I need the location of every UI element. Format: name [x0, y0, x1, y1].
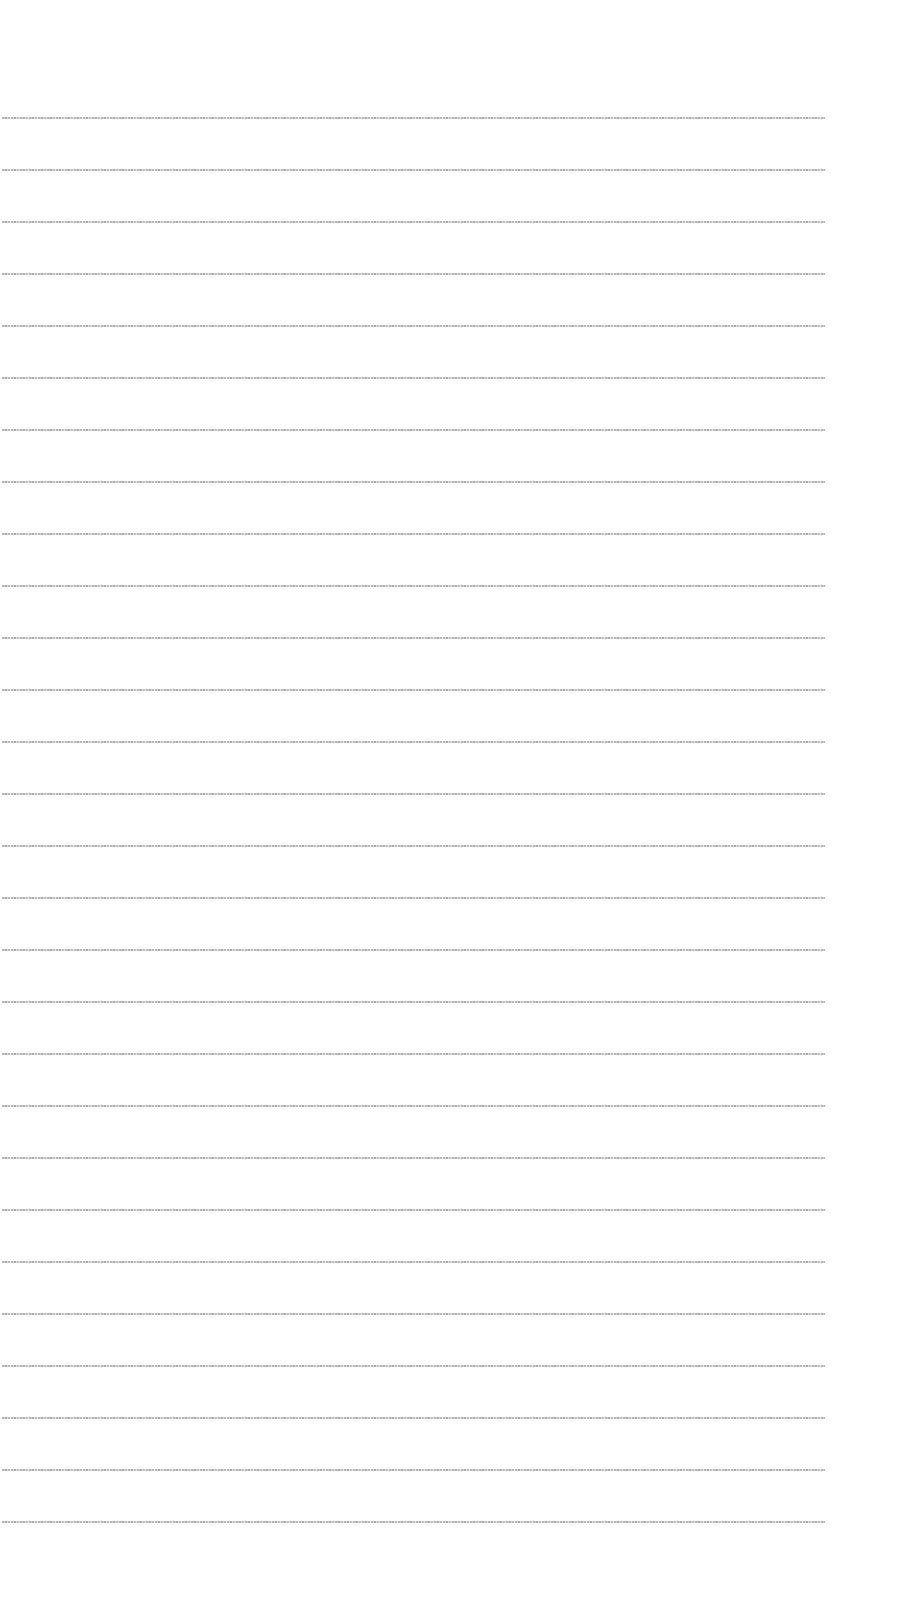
text-line-content: [unreadable]: [2, 1104, 21, 1108]
text-line-content: [unreadable]: [2, 948, 21, 952]
document-page: [unreadable][unreadable][unreadable][unr…: [0, 0, 924, 1622]
text-line: [unreadable]: [2, 1104, 825, 1108]
text-line-glyphs: [2, 793, 825, 795]
text-line-content: [unreadable]: [2, 740, 21, 744]
text-line-glyphs: [2, 325, 825, 327]
text-line-content: [unreadable]: [2, 636, 21, 640]
text-line: [unreadable]: [2, 896, 825, 900]
text-line: [unreadable]: [2, 532, 825, 536]
text-line-glyphs: [2, 689, 825, 691]
text-line-glyphs: [2, 845, 825, 847]
text-line-content: [unreadable]: [2, 1312, 21, 1316]
text-line-glyphs: [2, 1365, 825, 1367]
text-line-glyphs: [2, 637, 825, 639]
text-line: [unreadable]: [2, 324, 825, 328]
text-line-glyphs: [2, 897, 825, 899]
text-line-content: [unreadable]: [2, 1260, 21, 1264]
text-line: [unreadable]: [2, 1156, 825, 1160]
text-line-glyphs: [2, 1001, 825, 1003]
text-line-glyphs: [2, 741, 825, 743]
text-line: [unreadable]: [2, 1416, 825, 1420]
text-line-content: [unreadable]: [2, 896, 21, 900]
text-line-content: [unreadable]: [2, 168, 21, 172]
text-line-content: [unreadable]: [2, 532, 21, 536]
text-line-content: [unreadable]: [2, 1052, 21, 1056]
text-line: [unreadable]: [2, 116, 825, 120]
text-line-content: [unreadable]: [2, 584, 21, 588]
text-line-glyphs: [2, 1053, 825, 1055]
text-line-glyphs: [2, 533, 825, 535]
text-line-glyphs: [2, 949, 825, 951]
text-line-glyphs: [2, 117, 825, 119]
text-line: [unreadable]: [2, 844, 825, 848]
text-line-content: [unreadable]: [2, 688, 21, 692]
text-line-glyphs: [2, 1313, 825, 1315]
text-line: [unreadable]: [2, 480, 825, 484]
text-line: [unreadable]: [2, 584, 825, 588]
text-line-content: [unreadable]: [2, 1416, 21, 1420]
text-line-glyphs: [2, 585, 825, 587]
text-line-glyphs: [2, 1261, 825, 1263]
text-line-glyphs: [2, 1105, 825, 1107]
text-line-content: [unreadable]: [2, 1000, 21, 1004]
text-line-glyphs: [2, 1469, 825, 1471]
text-line: [unreadable]: [2, 1312, 825, 1316]
text-line-glyphs: [2, 1521, 825, 1523]
text-line-glyphs: [2, 273, 825, 275]
text-line-glyphs: [2, 377, 825, 379]
text-line-content: [unreadable]: [2, 376, 21, 380]
text-line-glyphs: [2, 169, 825, 171]
text-line-content: [unreadable]: [2, 1468, 21, 1472]
text-line: [unreadable]: [2, 1364, 825, 1368]
text-line-content: [unreadable]: [2, 1156, 21, 1160]
text-line-glyphs: [2, 1209, 825, 1211]
text-line-content: [unreadable]: [2, 220, 21, 224]
text-line-content: [unreadable]: [2, 1364, 21, 1368]
text-line-content: [unreadable]: [2, 792, 21, 796]
text-line: [unreadable]: [2, 376, 825, 380]
text-line: [unreadable]: [2, 1052, 825, 1056]
text-line-glyphs: [2, 1417, 825, 1419]
text-line-content: [unreadable]: [2, 324, 21, 328]
text-line: [unreadable]: [2, 1208, 825, 1212]
text-line-content: [unreadable]: [2, 844, 21, 848]
text-line: [unreadable]: [2, 636, 825, 640]
text-line: [unreadable]: [2, 792, 825, 796]
text-line: [unreadable]: [2, 1000, 825, 1004]
text-line-content: [unreadable]: [2, 1208, 21, 1212]
text-line-content: [unreadable]: [2, 428, 21, 432]
text-line: [unreadable]: [2, 740, 825, 744]
text-line-glyphs: [2, 481, 825, 483]
text-line: [unreadable]: [2, 220, 825, 224]
text-line-content: [unreadable]: [2, 480, 21, 484]
text-line: [unreadable]: [2, 1468, 825, 1472]
text-line-content: [unreadable]: [2, 272, 21, 276]
text-line-content: [unreadable]: [2, 1520, 21, 1524]
text-line: [unreadable]: [2, 428, 825, 432]
text-line: [unreadable]: [2, 272, 825, 276]
text-line: [unreadable]: [2, 168, 825, 172]
text-line-glyphs: [2, 1157, 825, 1159]
text-line: [unreadable]: [2, 1520, 825, 1524]
text-line: [unreadable]: [2, 1260, 825, 1264]
text-line: [unreadable]: [2, 688, 825, 692]
text-line-content: [unreadable]: [2, 116, 21, 120]
text-line: [unreadable]: [2, 948, 825, 952]
text-line-glyphs: [2, 429, 825, 431]
text-line-glyphs: [2, 221, 825, 223]
